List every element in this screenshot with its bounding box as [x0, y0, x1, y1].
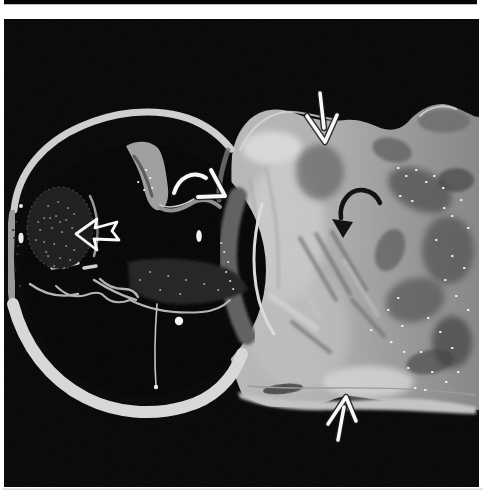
scan-hairline — [2, 489, 483, 490]
scanned-figure-page — [0, 0, 486, 492]
film-grain-overlay — [4, 19, 479, 487]
adjacent-figure-edge — [4, 0, 477, 4]
photo-area — [4, 19, 479, 487]
specimen-photograph — [0, 0, 486, 492]
